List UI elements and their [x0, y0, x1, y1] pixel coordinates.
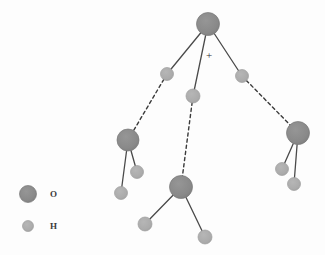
- legend-label-hydrogen: H: [50, 221, 57, 231]
- hydrogen-bond: [242, 76, 298, 133]
- oxygen-atom-o2: [117, 129, 139, 151]
- hydrogen-bond: [128, 74, 167, 140]
- positive-charge-label: +: [206, 49, 212, 61]
- hydrogen-atom-h3: [236, 70, 249, 83]
- hydrogen-atom-h2: [186, 89, 200, 103]
- molecule-canvas: [0, 0, 325, 255]
- oxygen-atom-o4: [287, 122, 310, 145]
- hydrogen-atom-h8: [276, 163, 289, 176]
- hydrogen-atom-h5: [115, 187, 128, 200]
- hydrogen-atom-h7: [198, 230, 212, 244]
- hydrogen-atom-h4: [131, 166, 144, 179]
- hydrogen-bond: [181, 96, 193, 187]
- hydrogen-atom-h6: [138, 217, 152, 231]
- legend-swatch-oxygen: [20, 186, 37, 203]
- hydrogen-atom-h9: [288, 178, 301, 191]
- hydrogen-atom-h1: [161, 68, 174, 81]
- oxygen-atom-o1: [197, 13, 220, 36]
- legend-label-oxygen: O: [50, 189, 57, 199]
- atom-layer: [20, 13, 310, 245]
- oxygen-atom-o3: [170, 176, 193, 199]
- legend-swatch-hydrogen: [23, 221, 34, 232]
- molecular-diagram: + O H: [0, 0, 325, 255]
